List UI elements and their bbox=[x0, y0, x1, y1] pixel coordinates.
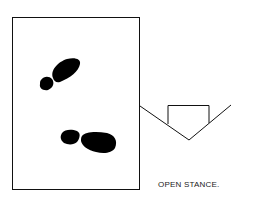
stance-diagram bbox=[0, 0, 253, 204]
caption: OPEN STANCE. bbox=[158, 180, 219, 189]
home-plate bbox=[140, 105, 231, 140]
front-footprint-icon bbox=[40, 58, 80, 90]
back-footprint-icon bbox=[61, 130, 116, 153]
batters-box bbox=[13, 18, 140, 190]
